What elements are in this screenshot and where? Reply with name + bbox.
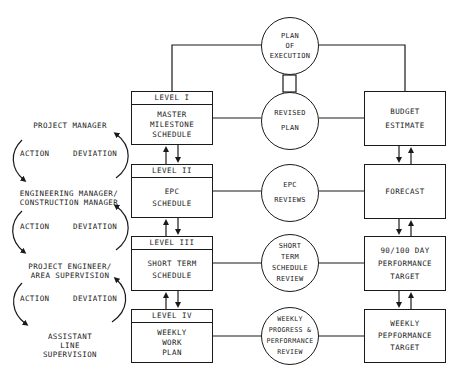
schedule-box-level-2: LEVEL II EPC SCHEDULE <box>131 164 213 218</box>
review-circle-short-term-schedule-review: SHORT TERM SCHEDULE REVIEW <box>261 234 319 292</box>
cost-box-weekly-performance-target: WEEKLY PEPFORMANCE TARGET <box>364 309 446 363</box>
review-circle-weekly-progress-performance: WEEKLY PROGRESS & PERFORMANCE REVIEW <box>261 307 319 365</box>
role-engineering-construction-manager: ENGINEERING MANAGER/ CONSTRUCTION MANAGE… <box>14 189 124 207</box>
role-project-manager: PROJECT MANAGER <box>30 121 110 130</box>
cost-box-90-100-day-target: 90/100 DAY PERFORMANCE TARGET <box>364 236 446 291</box>
deviation-label: DEVIATION <box>73 294 117 303</box>
schedule-box-level-3: LEVEL III SHORT TERM SCHEDULE <box>131 236 213 291</box>
review-circle-revised-plan: REVISED PLAN <box>261 92 319 150</box>
schedule-box-level-4: LEVEL IV WEEKLY WORK PLAN <box>131 309 213 363</box>
level-header: LEVEL IV <box>132 310 212 323</box>
level-header: LEVEL II <box>132 165 212 178</box>
review-circle-plan-of-execution: PLAN OF EXECUTION <box>261 17 319 75</box>
deviation-label: DEVIATION <box>73 222 117 231</box>
action-label: ACTION <box>20 294 50 303</box>
role-assistant-line-supervision: ASSISTANT LINE SUPERVISION <box>30 332 110 359</box>
action-label: ACTION <box>20 222 50 231</box>
level-header: LEVEL III <box>132 237 212 250</box>
cost-box-forecast: FORECAST <box>364 164 446 219</box>
action-label: ACTION <box>20 149 50 158</box>
review-circle-epc-reviews: EPC REVIEWS <box>261 164 319 222</box>
level-header: LEVEL I <box>132 92 212 105</box>
role-project-engineer-area-supervision: PROJECT ENGINEER/ AREA SUPERVISION <box>20 262 120 280</box>
deviation-label: DEVIATION <box>73 149 117 158</box>
cost-box-budget-estimate: BUDGET ESTIMATE <box>364 91 446 146</box>
schedule-box-level-1: LEVEL I MASTER MILESTONE SCHEDULE <box>131 91 213 145</box>
